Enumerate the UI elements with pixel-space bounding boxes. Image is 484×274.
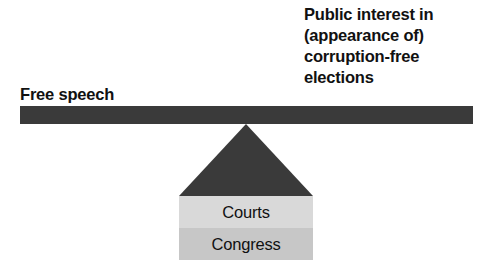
block-congress: Congress	[179, 228, 313, 260]
left-pan-label: Free speech	[20, 84, 114, 104]
fulcrum-triangle-icon	[179, 124, 313, 196]
block-courts-label: Courts	[222, 203, 269, 222]
institution-stack: Courts Congress	[179, 196, 313, 260]
right-pan-label: Public interest in (appearance of) corru…	[304, 4, 484, 88]
balance-beam	[20, 106, 473, 124]
balance-scale-diagram: Public interest in (appearance of) corru…	[0, 0, 484, 274]
fulcrum-triangle-shape	[179, 124, 313, 196]
block-courts: Courts	[179, 196, 313, 228]
block-congress-label: Congress	[211, 235, 280, 254]
